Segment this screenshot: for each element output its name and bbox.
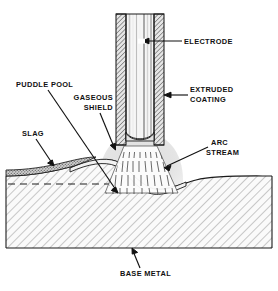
label-arc-stream-line2: STREAM: [206, 148, 239, 157]
label-electrode: ELECTRODE: [184, 37, 233, 46]
extruded-coating-right: [154, 14, 164, 145]
electrode-assembly: [116, 14, 164, 145]
label-slag: SLAG: [22, 129, 44, 138]
label-puddle-pool: PUDDLE POOL: [16, 80, 73, 89]
diagram-canvas: ELECTRODE EXTRUDED COATING PUDDLE POOL G…: [0, 0, 278, 291]
label-arc-stream-line1: ARC: [211, 138, 228, 147]
welding-process-diagram: ELECTRODE EXTRUDED COATING PUDDLE POOL G…: [0, 0, 278, 291]
label-gaseous-shield-line1: GASEOUS: [74, 93, 113, 102]
label-base-metal: BASE METAL: [120, 269, 171, 278]
label-extruded-coating-line2: COATING: [190, 95, 226, 104]
label-gaseous-shield-line2: SHIELD: [84, 103, 114, 112]
electrode-core-shading: [130, 14, 152, 140]
extruded-coating-left: [116, 14, 126, 145]
label-extruded-coating-line1: EXTRUDED: [190, 85, 234, 94]
